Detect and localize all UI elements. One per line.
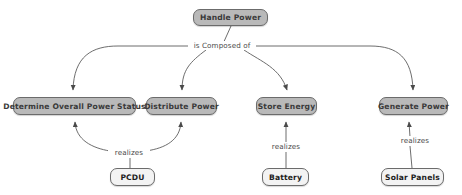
edge-solar-to-generate	[410, 146, 412, 168]
node-label: Determine Overall Power Status	[3, 102, 146, 111]
node-store-energy[interactable]: Store Energy	[256, 97, 317, 115]
node-label: Battery	[269, 173, 302, 182]
edge-solar-to-generate-head	[409, 122, 410, 137]
node-label: Store Energy	[258, 102, 316, 111]
node-determine-overall-power-status[interactable]: Determine Overall Power Status	[13, 97, 136, 115]
edge-handle-to-store	[244, 50, 287, 90]
node-label: Generate Power	[378, 102, 449, 111]
node-label: PCDU	[120, 173, 144, 182]
edge-label-realizes-pcdu: realizes	[108, 148, 150, 157]
node-label: Solar Panels	[385, 173, 440, 182]
edge-label-realizes-solar-panels: realizes	[394, 136, 436, 145]
edge-pcdu-to-distribute	[146, 122, 181, 151]
node-label: Distribute Power	[144, 102, 219, 111]
node-label: Handle Power	[200, 13, 261, 22]
edge-handle-to-generate	[370, 46, 413, 90]
edge-pcdu-to-determine	[75, 122, 110, 151]
edge-handle-to-distribute	[182, 50, 206, 90]
concept-map-diagram: Handle Power Determine Overall Power Sta…	[0, 0, 462, 195]
edge-label-realizes-battery: realizes	[265, 142, 307, 151]
node-pcdu[interactable]: PCDU	[110, 168, 155, 186]
edge-handle-to-determine	[73, 46, 118, 90]
node-battery[interactable]: Battery	[262, 168, 309, 186]
node-generate-power[interactable]: Generate Power	[379, 97, 448, 115]
node-solar-panels[interactable]: Solar Panels	[381, 168, 444, 186]
node-distribute-power[interactable]: Distribute Power	[146, 97, 217, 115]
node-handle-power[interactable]: Handle Power	[193, 9, 268, 26]
edge-label-is-composed-of: is Composed of	[188, 41, 256, 50]
